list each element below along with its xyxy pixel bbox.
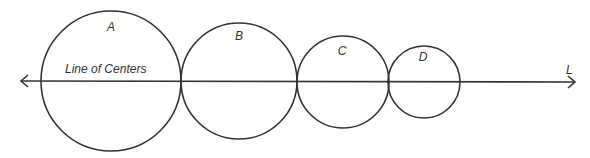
circle-a-label: A [106, 20, 115, 34]
line-of-centers [21, 81, 575, 82]
line-caption: Line of Centers [65, 62, 146, 76]
circle-d-label: D [419, 50, 428, 64]
line-label: L [566, 63, 573, 77]
circle-b-label: B [235, 29, 243, 43]
circle-c-label: C [338, 44, 347, 58]
line-of-centers-diagram: A B C D Line of Centers L [0, 0, 590, 158]
